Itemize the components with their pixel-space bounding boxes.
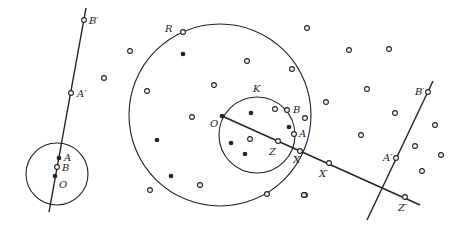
left-label-B: B bbox=[61, 162, 69, 173]
scatter-point bbox=[245, 59, 250, 64]
scatter-point bbox=[359, 133, 364, 138]
label-R: R bbox=[164, 23, 173, 34]
mid-point-X bbox=[298, 149, 303, 154]
mid-label-B: B bbox=[292, 104, 300, 115]
mid-label-X: X bbox=[292, 154, 301, 165]
scatter-point bbox=[198, 183, 203, 188]
left-line bbox=[49, 8, 86, 212]
mid-point-Z bbox=[276, 139, 281, 144]
scatter-point bbox=[248, 137, 253, 142]
mid-label-O: O bbox=[210, 118, 218, 129]
scatter-point bbox=[420, 169, 425, 174]
scatter-point bbox=[347, 48, 352, 53]
mid-point-X' bbox=[327, 161, 332, 166]
mid-label-Z': Z′ bbox=[397, 202, 408, 213]
mid-point-Z' bbox=[403, 195, 408, 200]
scatter-point bbox=[273, 107, 278, 112]
scatter-point bbox=[229, 141, 233, 145]
left-point-O bbox=[53, 174, 57, 178]
left-circle bbox=[26, 143, 88, 205]
mid-point-A bbox=[292, 132, 297, 137]
right-line bbox=[367, 81, 433, 220]
scatter-point bbox=[128, 49, 133, 54]
scatter-point bbox=[305, 26, 310, 31]
right-label-A': A′ bbox=[382, 152, 393, 163]
scatter-point bbox=[181, 30, 186, 35]
mid-point-B bbox=[285, 108, 290, 113]
left-label-O: O bbox=[59, 179, 67, 190]
scatter-point bbox=[212, 83, 217, 88]
scatter-point bbox=[393, 111, 398, 116]
scatter-point bbox=[169, 174, 173, 178]
left-point-B bbox=[55, 165, 60, 170]
mid-label-A: A bbox=[298, 128, 306, 139]
scatter-point bbox=[433, 123, 438, 128]
scatter-point bbox=[290, 67, 295, 72]
scatter-point bbox=[243, 152, 247, 156]
scatter-point bbox=[102, 76, 107, 81]
left-point-A bbox=[57, 156, 61, 160]
scatter-point bbox=[190, 115, 195, 120]
left-label-A': A′ bbox=[76, 88, 87, 99]
left-point-A' bbox=[69, 91, 74, 96]
scatter-point bbox=[302, 193, 307, 198]
scatter-point bbox=[287, 125, 291, 129]
right-label-B': B′ bbox=[414, 86, 425, 97]
scatter-point bbox=[265, 192, 270, 197]
scatter-point bbox=[365, 87, 370, 92]
scatter-point bbox=[155, 138, 159, 142]
mid-label-X': X′ bbox=[318, 168, 329, 179]
label-K: K bbox=[252, 83, 261, 94]
scatter-point bbox=[181, 52, 185, 56]
diagram-canvas: B′A′ABORKOBAZXX′Z′B′A′ bbox=[0, 0, 463, 237]
right-point-B' bbox=[426, 90, 431, 95]
scatter-point bbox=[145, 89, 150, 94]
scatter-point bbox=[303, 116, 308, 121]
scatter-point bbox=[249, 111, 253, 115]
scatter-point bbox=[148, 188, 153, 193]
scatter-point bbox=[387, 47, 392, 52]
scatter-point bbox=[439, 153, 444, 158]
left-point-B' bbox=[82, 18, 87, 23]
circle-K bbox=[219, 97, 295, 173]
left-label-B': B′ bbox=[88, 15, 99, 26]
right-point-A' bbox=[394, 156, 399, 161]
geometry-diagram: B′A′ABORKOBAZXX′Z′B′A′ bbox=[0, 0, 463, 237]
mid-point-O bbox=[220, 114, 224, 118]
scatter-point bbox=[413, 144, 418, 149]
scatter-point bbox=[324, 100, 329, 105]
mid-label-Z: Z bbox=[268, 146, 277, 157]
